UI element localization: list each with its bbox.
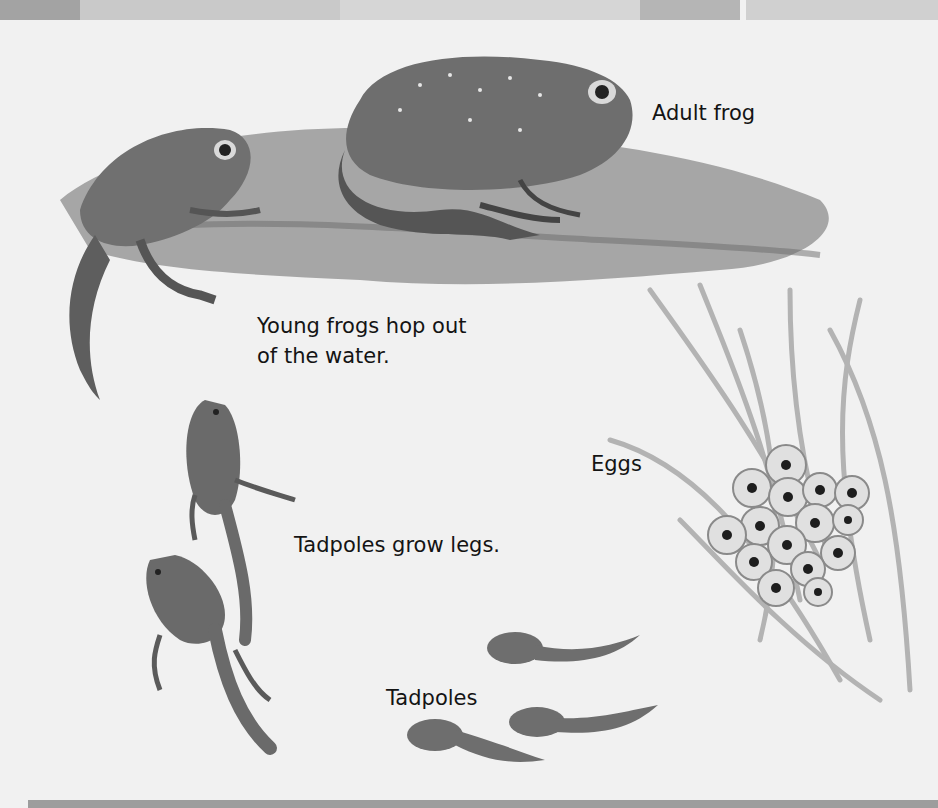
bottom-border-bar [28, 800, 938, 808]
label-adult-frog: Adult frog [652, 100, 755, 126]
label-young-frogs-line1: Young frogs hop out [257, 313, 466, 339]
label-tadpoles-grow-legs: Tadpoles grow legs. [294, 532, 500, 558]
tadpoles-with-legs-illustration [146, 400, 295, 748]
label-young-frogs-line2: of the water. [257, 343, 390, 369]
label-eggs: Eggs [591, 451, 642, 477]
label-tadpoles: Tadpoles [386, 685, 477, 711]
